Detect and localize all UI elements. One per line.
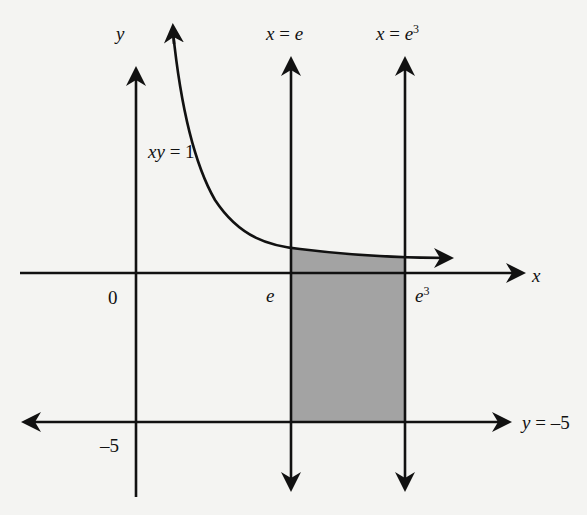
label-xy-equals-1: xy = 1 — [148, 142, 195, 161]
label-eq: = — [274, 23, 294, 44]
diagram-canvas — [0, 0, 587, 515]
label-x-equals-e3: x = e3 — [376, 24, 419, 43]
label-lhs: xy — [148, 141, 165, 162]
curve-xy-equals-1 — [173, 32, 450, 258]
label-x-equals-e: x = e — [266, 24, 303, 43]
label-val: e — [405, 23, 413, 44]
label-eq: = — [384, 23, 404, 44]
label-rhs: 1 — [185, 141, 195, 162]
tick-exp: 3 — [423, 284, 429, 298]
x-axis-label: x — [532, 266, 540, 285]
y-axis-label: y — [116, 24, 124, 43]
figure: y x 0 x = e x = e3 xy = 1 e e3 –5 y = –5 — [0, 0, 587, 515]
label-y-equals-minus-5: y = –5 — [522, 413, 570, 432]
label-eq: = — [165, 141, 185, 162]
curve-top-arrow — [173, 27, 174, 44]
label-val: e — [295, 23, 303, 44]
label-val: –5 — [551, 412, 570, 433]
tick-label-e: e — [266, 286, 274, 305]
tick-label-e3: e3 — [415, 286, 429, 305]
origin-label: 0 — [108, 288, 118, 307]
label-eq: = — [530, 412, 550, 433]
tick-label-minus-5: –5 — [100, 436, 119, 455]
label-exp: 3 — [413, 22, 419, 36]
